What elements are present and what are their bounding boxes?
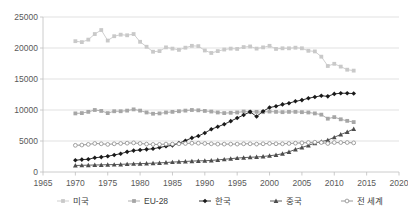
data-point [93, 32, 97, 36]
data-point [274, 142, 278, 146]
legend-label: 한국 [215, 196, 231, 206]
data-point [313, 112, 317, 116]
data-point [190, 136, 195, 141]
data-point [268, 110, 272, 114]
data-point [171, 142, 175, 146]
data-point [125, 150, 130, 155]
data-point [313, 140, 317, 144]
data-point [313, 50, 317, 54]
data-point [326, 117, 330, 121]
data-point [339, 65, 343, 69]
data-point [106, 39, 110, 43]
data-point [294, 110, 298, 114]
data-point [164, 142, 168, 146]
legend-item-2[interactable]: 한국 [199, 196, 231, 206]
data-point [294, 141, 298, 145]
data-point [216, 111, 220, 115]
data-point [145, 111, 149, 115]
x-tick-label: 1995 [228, 178, 247, 188]
data-point [306, 111, 310, 115]
data-point [132, 32, 136, 36]
data-point [86, 157, 91, 162]
data-point [118, 151, 123, 156]
data-point [248, 142, 252, 146]
data-point [132, 199, 136, 203]
data-point [145, 45, 149, 49]
data-point [319, 55, 323, 59]
legend-label: 전 세계 [357, 196, 383, 206]
data-point [209, 127, 214, 132]
data-point [222, 111, 226, 115]
data-point [106, 111, 110, 115]
data-point [281, 46, 285, 50]
data-point [171, 110, 175, 114]
data-point [209, 51, 213, 55]
data-point [338, 91, 343, 96]
data-point [300, 46, 304, 50]
data-point [138, 40, 142, 44]
data-point [145, 142, 149, 146]
data-point [119, 109, 123, 113]
line-chart: 0500010000150002000025000196519701975198… [0, 0, 408, 219]
data-point [73, 143, 77, 147]
y-tick-label: 0 [33, 167, 38, 177]
data-point [345, 199, 349, 203]
x-tick-label: 1990 [195, 178, 214, 188]
data-point [171, 47, 175, 51]
data-point [261, 45, 265, 49]
legend-item-3[interactable]: 중국 [270, 196, 302, 206]
y-tick-label: 5000 [19, 136, 38, 146]
x-tick-label: 1970 [66, 178, 85, 188]
data-point [190, 108, 194, 112]
data-point [235, 47, 239, 51]
data-point [112, 34, 116, 38]
data-point [209, 110, 213, 114]
data-point [151, 146, 156, 151]
data-point [332, 115, 336, 119]
legend: 미국EU-28한국중국전 세계 [57, 196, 383, 206]
x-tick-label: 1980 [131, 178, 150, 188]
data-point [352, 69, 356, 73]
data-point [131, 148, 136, 153]
data-point [112, 109, 116, 113]
series-line [75, 109, 353, 122]
data-point [261, 142, 265, 146]
data-point [177, 109, 181, 113]
data-point [151, 112, 155, 116]
data-point [351, 127, 356, 131]
data-point [203, 131, 208, 136]
data-point [119, 33, 123, 37]
data-point [306, 141, 310, 145]
data-point [280, 102, 285, 107]
data-point [132, 141, 136, 145]
data-point [222, 122, 227, 127]
y-tick-label: 10000 [14, 105, 38, 115]
data-point [86, 143, 90, 147]
legend-label: 중국 [286, 196, 302, 206]
data-point [203, 49, 207, 53]
legend-item-1[interactable]: EU-28 [128, 196, 168, 206]
data-point [287, 101, 292, 106]
data-point [287, 142, 291, 146]
data-point [281, 110, 285, 114]
data-point [352, 120, 356, 124]
data-point [235, 116, 240, 121]
data-point [326, 94, 331, 99]
data-point [73, 158, 78, 163]
data-point [92, 155, 97, 160]
data-point [190, 141, 194, 145]
data-point [267, 105, 272, 110]
data-point [216, 49, 220, 53]
data-point [177, 142, 181, 146]
data-point [228, 119, 233, 124]
data-point [138, 142, 142, 146]
x-tick-label: 2020 [390, 178, 408, 188]
data-point [216, 142, 220, 146]
legend-item-4[interactable]: 전 세계 [341, 196, 383, 206]
data-point [196, 44, 200, 48]
data-point [196, 108, 200, 112]
data-point [203, 199, 208, 204]
data-point [177, 48, 181, 52]
legend-item-0[interactable]: 미국 [57, 196, 89, 206]
data-point [319, 113, 323, 117]
